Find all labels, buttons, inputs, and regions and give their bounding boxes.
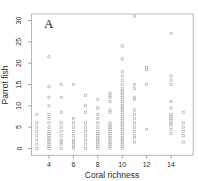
data-point <box>133 135 135 137</box>
data-point <box>36 135 38 137</box>
data-point <box>170 100 172 102</box>
data-point <box>170 132 172 134</box>
x-tick-label: 4 <box>47 161 51 168</box>
y-tick-label: 30 <box>16 17 23 25</box>
y-tick-label: 20 <box>16 59 23 67</box>
scatter-figure: 468101214051015202530 A Coral richness P… <box>0 0 198 181</box>
data-point <box>72 118 74 120</box>
y-tick-label: 5 <box>16 125 23 129</box>
data-point <box>85 94 87 96</box>
data-point <box>85 143 87 145</box>
y-tick-label: 10 <box>16 102 23 110</box>
data-point <box>109 100 111 102</box>
data-point <box>182 130 184 132</box>
data-point <box>72 130 74 132</box>
x-tick-label: 6 <box>71 161 75 168</box>
x-tick-label: 8 <box>96 161 100 168</box>
data-point <box>170 113 172 115</box>
y-tick-label: 0 <box>16 146 23 150</box>
data-point <box>85 105 87 107</box>
plot-box <box>32 14 194 155</box>
data-point <box>97 126 99 128</box>
data-point <box>60 122 62 124</box>
data-point <box>170 107 172 109</box>
data-point <box>60 139 62 141</box>
panel-label: A <box>44 16 54 31</box>
data-point <box>48 56 50 58</box>
data-point <box>133 113 135 115</box>
data-point <box>121 88 123 90</box>
data-point <box>146 83 148 85</box>
plot-layer: 468101214051015202530 <box>16 14 194 168</box>
data-point <box>133 109 135 111</box>
data-point <box>36 113 38 115</box>
data-point <box>60 83 62 85</box>
data-point <box>36 130 38 132</box>
data-point <box>97 113 99 115</box>
data-point <box>48 118 50 120</box>
data-point <box>109 92 111 94</box>
x-axis-label: Coral richness <box>85 170 139 180</box>
data-point <box>109 109 111 111</box>
data-point <box>182 135 184 137</box>
data-point <box>36 126 38 128</box>
x-tick-label: 12 <box>143 161 151 168</box>
data-point <box>170 83 172 85</box>
data-point <box>48 96 50 98</box>
data-point <box>97 130 99 132</box>
data-point <box>133 122 135 124</box>
data-point <box>170 128 172 130</box>
data-point <box>85 122 87 124</box>
data-point <box>36 139 38 141</box>
data-point <box>121 75 123 77</box>
data-point <box>36 143 38 145</box>
data-point <box>48 86 50 88</box>
data-point <box>85 126 87 128</box>
data-point <box>36 122 38 124</box>
data-point <box>85 135 87 137</box>
data-point <box>85 111 87 113</box>
data-point <box>60 96 62 98</box>
x-tick-label: 14 <box>167 161 175 168</box>
data-point <box>72 122 74 124</box>
data-point <box>36 147 38 149</box>
data-point <box>60 130 62 132</box>
data-point <box>170 75 172 77</box>
data-point <box>121 83 123 85</box>
data-point <box>97 122 99 124</box>
data-point <box>170 32 172 34</box>
data-point <box>133 83 135 85</box>
data-point <box>133 88 135 90</box>
data-point <box>97 118 99 120</box>
data-point <box>109 122 111 124</box>
data-point <box>182 122 184 124</box>
data-point <box>72 135 74 137</box>
data-point <box>182 111 184 113</box>
data-point <box>48 130 50 132</box>
data-point <box>182 141 184 143</box>
data-point <box>121 58 123 60</box>
data-point <box>182 126 184 128</box>
data-point <box>121 71 123 73</box>
data-point <box>85 130 87 132</box>
data-point <box>97 107 99 109</box>
data-point <box>146 128 148 130</box>
data-point <box>133 141 135 143</box>
data-point <box>72 83 74 85</box>
y-tick-label: 25 <box>16 38 23 46</box>
data-point <box>85 139 87 141</box>
data-point <box>121 79 123 81</box>
data-point <box>170 79 172 81</box>
data-point <box>72 126 74 128</box>
data-point <box>48 105 50 107</box>
data-point <box>133 96 135 98</box>
data-point <box>48 122 50 124</box>
data-point <box>60 147 62 149</box>
data-point <box>146 66 148 68</box>
data-point <box>48 113 50 115</box>
data-point <box>60 111 62 113</box>
data-point <box>72 139 74 141</box>
y-axis-label: Parrot fish <box>0 65 10 104</box>
x-tick-label: 10 <box>118 161 126 168</box>
data-point <box>133 126 135 128</box>
